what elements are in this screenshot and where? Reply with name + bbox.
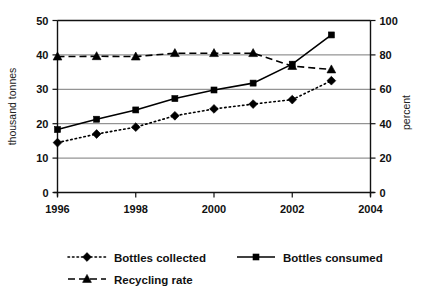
left-tick-label: 20	[36, 118, 48, 130]
data-point-marker	[55, 127, 61, 133]
legend-label: Recycling rate	[114, 274, 193, 286]
data-point-marker	[249, 100, 258, 109]
data-point-marker	[327, 65, 336, 73]
legend-label: Bottles collected	[114, 252, 206, 264]
right-tick-label: 0	[380, 187, 386, 199]
left-tick-label: 50	[36, 15, 48, 27]
data-point-marker	[288, 95, 297, 104]
x-axis-ticks: 19961998200020022004	[45, 193, 383, 215]
data-point-marker	[92, 130, 101, 139]
right-tick-label: 100	[380, 15, 398, 27]
data-point-marker	[211, 87, 217, 93]
right-tick-label: 40	[380, 118, 392, 130]
right-axis-title: percent	[400, 95, 412, 130]
data-point-marker	[94, 116, 100, 122]
left-axis-ticks: 01020304050	[36, 15, 57, 199]
series-line	[58, 35, 332, 130]
data-point-marker	[53, 138, 62, 147]
data-point-marker	[170, 49, 179, 57]
axis-titles: thousand tonnespercent	[6, 68, 412, 146]
data-point-marker	[133, 107, 139, 113]
x-tick-label: 1998	[124, 203, 148, 215]
data-point-marker	[172, 96, 178, 102]
x-tick-label: 2004	[358, 203, 383, 215]
right-tick-label: 60	[380, 83, 392, 95]
left-tick-label: 0	[42, 187, 48, 199]
legend-label: Bottles consumed	[283, 252, 383, 264]
data-point-marker	[250, 80, 256, 86]
right-tick-label: 80	[380, 49, 392, 61]
data-point-marker	[210, 105, 219, 114]
left-axis-title: thousand tonnes	[6, 68, 18, 146]
line-chart: 19961998200020022004 01020304050 0204060…	[0, 0, 425, 299]
legend-marker	[83, 253, 92, 262]
data-point-marker	[170, 111, 179, 120]
x-tick-label: 2002	[280, 203, 304, 215]
legend-marker	[253, 254, 259, 260]
left-tick-label: 10	[36, 152, 48, 164]
chart-legend: Bottles collectedBottles consumedRecycli…	[68, 252, 383, 286]
left-tick-label: 30	[36, 83, 48, 95]
data-point-marker	[327, 76, 336, 85]
right-tick-label: 20	[380, 152, 392, 164]
data-point-marker	[328, 32, 334, 38]
x-tick-label: 1996	[45, 203, 69, 215]
x-tick-label: 2000	[202, 203, 226, 215]
left-tick-label: 40	[36, 49, 48, 61]
right-axis-ticks: 020406080100	[371, 15, 398, 199]
chart-container: 19961998200020022004 01020304050 0204060…	[0, 0, 425, 299]
